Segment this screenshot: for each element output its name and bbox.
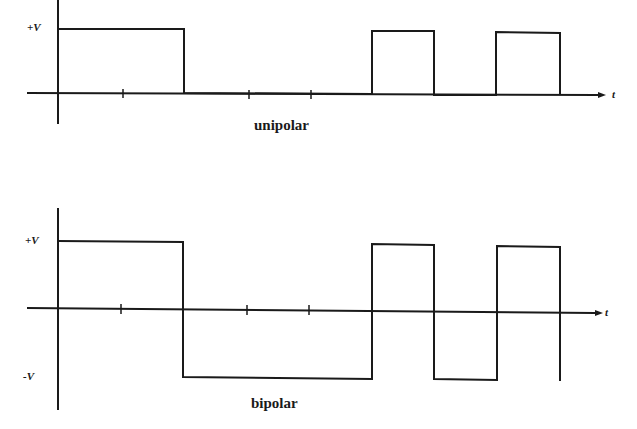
bipolar-arrow-icon [595, 310, 603, 316]
unipolar-waveform [58, 29, 560, 95]
bipolar-t-axis [27, 308, 595, 313]
signal-diagrams [0, 0, 637, 429]
bipolar-t-label: t [605, 306, 608, 318]
bipolar-diagram [27, 208, 603, 410]
bipolar-minus-v-label: -V [23, 370, 34, 382]
bipolar-caption: bipolar [251, 395, 298, 412]
unipolar-plus-v-label: +V [27, 21, 41, 33]
unipolar-t-label: t [612, 88, 615, 100]
unipolar-caption: unipolar [254, 117, 309, 134]
unipolar-diagram [27, 0, 606, 124]
unipolar-arrow-icon [598, 92, 606, 98]
bipolar-plus-v-label: +V [25, 234, 39, 246]
